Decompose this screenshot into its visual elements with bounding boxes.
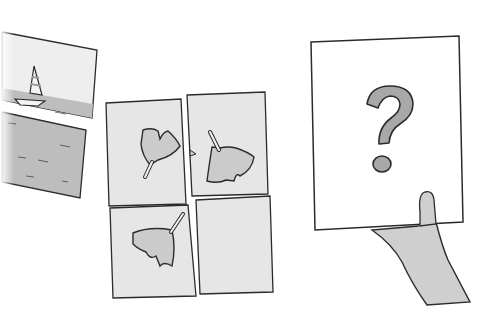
grid-tile-bottom-left (110, 205, 196, 298)
ginkgo-grid (106, 92, 273, 298)
sailboat-picture (0, 20, 97, 200)
illustration-canvas: ? (0, 0, 504, 334)
grid-tile-bottom-right-empty (196, 196, 273, 294)
grid-tile-top-left (106, 99, 186, 206)
puzzle-illustration: Hand-drawn puzzle illustration: a torn s… (0, 0, 504, 334)
grid-tile-top-right (187, 92, 268, 196)
